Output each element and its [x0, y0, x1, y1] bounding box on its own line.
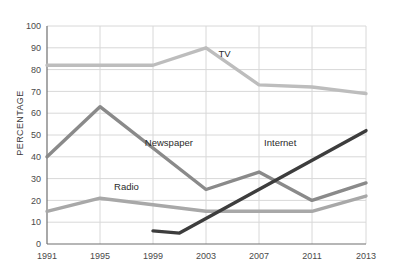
y-axis-tick: 90 — [31, 43, 41, 53]
y-axis-tick: 10 — [31, 217, 41, 227]
y-axis-tick: 80 — [31, 65, 41, 75]
y-axis-tick: 50 — [31, 130, 41, 140]
x-axis-tick: 1999 — [143, 251, 163, 261]
chart-plot-area: 0102030405060708090100199119951999200320… — [0, 0, 397, 280]
y-axis-tick: 70 — [31, 87, 41, 97]
x-axis-tick: 2007 — [249, 251, 269, 261]
y-axis-tick: 30 — [31, 174, 41, 184]
series-label-radio: Radio — [114, 181, 139, 192]
x-axis-tick: 2003 — [196, 251, 216, 261]
series-label-tv: TV — [218, 48, 231, 59]
y-axis-tick: 0 — [36, 239, 41, 249]
y-axis-tick: 60 — [31, 108, 41, 118]
y-axis-tick: 100 — [26, 21, 41, 31]
y-axis-tick: 20 — [31, 196, 41, 206]
x-axis-tick: 2011 — [302, 251, 321, 261]
x-axis-tick: 1991 — [37, 251, 57, 261]
y-axis-tick: 40 — [31, 152, 41, 162]
series-label-newspaper: Newspaper — [145, 137, 193, 148]
line-chart: PERCENTAGE 01020304050607080901001991199… — [0, 0, 397, 280]
series-label-internet: Internet — [264, 137, 297, 148]
x-axis-tick: 1995 — [90, 251, 110, 261]
x-axis-tick: 2013 — [356, 251, 376, 261]
